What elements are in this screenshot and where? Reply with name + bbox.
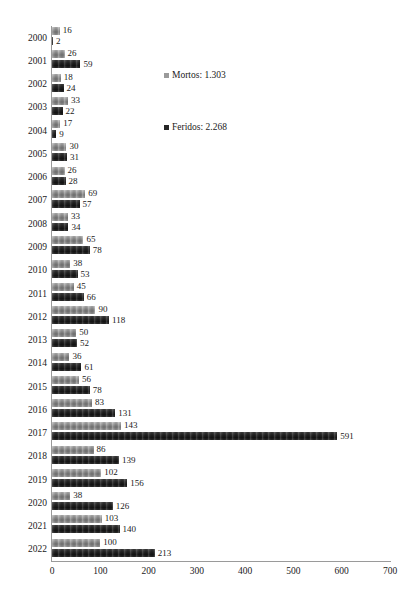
bar-mortos[interactable] [52, 422, 121, 430]
bar-feridos[interactable] [52, 502, 113, 510]
bar-value-label: 61 [84, 363, 93, 372]
bar-feridos[interactable] [52, 153, 67, 161]
bar-mortos[interactable] [52, 260, 70, 268]
bar-value-label: 45 [77, 282, 86, 291]
y-axis-category-label: 2000 [3, 33, 47, 43]
bar-feridos[interactable] [52, 84, 64, 92]
bar-group: 83131 [52, 398, 390, 421]
bar-group: 5678 [52, 375, 390, 398]
bar-group: 2659 [52, 49, 390, 72]
bar-feridos[interactable] [52, 246, 90, 254]
bar-value-label: 69 [88, 189, 97, 198]
bar-feridos[interactable] [52, 339, 77, 347]
bar-feridos[interactable] [52, 200, 80, 208]
bar-feridos[interactable] [52, 223, 68, 231]
bar-mortos[interactable] [52, 143, 66, 151]
bar-value-label: 103 [105, 514, 119, 523]
y-axis-category-label: 2015 [3, 382, 47, 392]
bar-feridos[interactable] [52, 270, 78, 278]
bar-value-label: 38 [73, 491, 82, 500]
y-axis-category-label: 2019 [3, 475, 47, 485]
bar-feridos[interactable] [52, 409, 115, 417]
legend-entry-feridos[interactable]: Feridos: 2.268 [164, 122, 227, 132]
y-axis-category-label: 2004 [3, 126, 47, 136]
bar-value-label: 28 [69, 177, 78, 186]
bar-group: 4566 [52, 282, 390, 305]
bar-group: 162 [52, 26, 390, 49]
bar-value-label: 26 [68, 166, 77, 175]
x-axis-tick-label: 200 [141, 566, 155, 576]
legend-entry-mortos[interactable]: Mortos: 1.303 [164, 70, 226, 80]
bar-feridos[interactable] [52, 37, 53, 45]
bar-mortos[interactable] [52, 515, 102, 523]
bar-value-label: 18 [64, 73, 73, 82]
bar-group: 86139 [52, 445, 390, 468]
bar-mortos[interactable] [52, 167, 65, 175]
bar-mortos[interactable] [52, 329, 76, 337]
legend-swatch-icon-mortos [164, 73, 169, 78]
bar-value-label: 50 [79, 328, 88, 337]
x-axis-tick-label: 0 [50, 566, 55, 576]
bar-value-label: 2 [56, 37, 61, 46]
bar-mortos[interactable] [52, 190, 85, 198]
bar-value-label: 56 [82, 375, 91, 384]
bar-feridos[interactable] [52, 479, 127, 487]
bar-mortos[interactable] [52, 120, 60, 128]
bar-mortos[interactable] [52, 74, 61, 82]
x-axis-tick-label: 500 [286, 566, 300, 576]
bar-value-label: 52 [80, 339, 89, 348]
y-axis-category-label: 2009 [3, 242, 47, 252]
bar-feridos[interactable] [52, 363, 81, 371]
legend-swatch-icon-feridos [164, 125, 169, 130]
bar-value-label: 16 [63, 26, 72, 35]
bar-feridos[interactable] [52, 432, 337, 440]
y-axis-category-label: 2005 [3, 149, 47, 159]
bar-feridos[interactable] [52, 177, 66, 185]
y-axis-category-labels: 2000200120022003200420052006200720082009… [0, 26, 47, 561]
bar-value-label: 66 [87, 293, 96, 302]
bar-mortos[interactable] [52, 236, 83, 244]
bar-feridos[interactable] [52, 293, 84, 301]
bar-value-label: 213 [158, 549, 172, 558]
y-axis-category-label: 2014 [3, 358, 47, 368]
x-axis-tick-labels: 0100200300400500600700 [52, 563, 392, 581]
bar-mortos[interactable] [52, 306, 95, 314]
bar-mortos[interactable] [52, 50, 65, 58]
bar-mortos[interactable] [52, 539, 100, 547]
x-axis-tick-label: 600 [335, 566, 349, 576]
bar-feridos[interactable] [52, 130, 56, 138]
x-axis-tick-label: 700 [383, 566, 397, 576]
bar-feridos[interactable] [52, 316, 109, 324]
bar-mortos[interactable] [52, 376, 79, 384]
x-axis-tick-label: 100 [93, 566, 107, 576]
bar-feridos[interactable] [52, 456, 119, 464]
bar-feridos[interactable] [52, 107, 63, 115]
bar-feridos[interactable] [52, 386, 90, 394]
bar-mortos[interactable] [52, 492, 70, 500]
bar-mortos[interactable] [52, 469, 101, 477]
bar-mortos[interactable] [52, 283, 74, 291]
bar-feridos[interactable] [52, 525, 120, 533]
bar-mortos[interactable] [52, 353, 69, 361]
y-axis-category-label: 2001 [3, 56, 47, 66]
bar-value-label: 78 [93, 246, 102, 255]
bar-feridos[interactable] [52, 60, 80, 68]
bar-mortos[interactable] [52, 213, 68, 221]
bar-feridos[interactable] [52, 549, 155, 557]
y-axis-category-label: 2017 [3, 428, 47, 438]
bar-value-label: 53 [81, 270, 90, 279]
bar-mortos[interactable] [52, 97, 68, 105]
y-axis-category-label: 2010 [3, 265, 47, 275]
horizontal-bar-chart: 2000200120022003200420052006200720082009… [0, 0, 412, 605]
x-axis-tick-label: 300 [190, 566, 204, 576]
bar-mortos[interactable] [52, 399, 92, 407]
y-axis-category-label: 2021 [3, 521, 47, 531]
bar-mortos[interactable] [52, 27, 60, 35]
x-axis-line [51, 561, 391, 562]
bar-value-label: 140 [123, 525, 137, 534]
bar-group: 6957 [52, 189, 390, 212]
bar-value-label: 36 [72, 352, 81, 361]
y-axis-category-label: 2003 [3, 102, 47, 112]
bar-mortos[interactable] [52, 446, 94, 454]
bar-value-label: 78 [93, 386, 102, 395]
